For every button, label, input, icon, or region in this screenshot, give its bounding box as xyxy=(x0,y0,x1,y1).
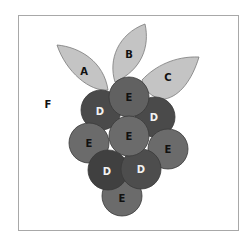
label-d-lower-left: D xyxy=(103,166,111,177)
label-f-background: F xyxy=(45,99,52,110)
label-e-center: E xyxy=(126,131,133,142)
label-a: A xyxy=(80,66,88,77)
label-e-left: E xyxy=(86,138,93,149)
label-d-upper-right: D xyxy=(150,112,158,123)
label-d-lower-right: D xyxy=(137,164,145,175)
label-e-bottom: E xyxy=(119,193,126,204)
label-b: B xyxy=(125,49,133,60)
label-e-top: E xyxy=(126,92,133,103)
label-d-upper-left: D xyxy=(96,106,104,117)
label-e-right: E xyxy=(165,144,172,155)
grape-bunch-diagram: A B C E D D E E E D D E F xyxy=(0,0,252,242)
label-c: C xyxy=(164,72,171,83)
